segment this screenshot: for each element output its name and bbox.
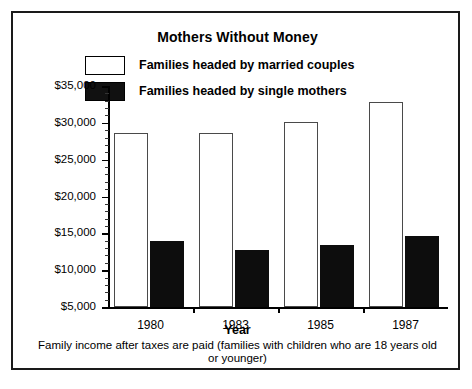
y-axis-tick (102, 123, 109, 125)
y-axis-minor-tick (105, 285, 109, 286)
bar-1987-series-2 (405, 236, 439, 307)
y-axis-tick-label: $25,000 (26, 153, 96, 165)
y-axis-tick-label: $30,000 (26, 116, 96, 128)
y-axis-minor-tick (105, 189, 109, 190)
y-axis-minor-tick (105, 204, 109, 205)
y-axis-tick-label: $35,000 (26, 79, 96, 91)
chart-frame: Mothers Without Money Families headed by… (11, 11, 460, 370)
y-axis-minor-tick (105, 152, 109, 153)
y-axis-minor-tick (105, 101, 109, 102)
y-axis-minor-tick (105, 300, 109, 301)
chart-caption: Family income after taxes are paid (fami… (37, 339, 438, 365)
bar-1980-series-2 (150, 241, 184, 307)
legend-item-married-couples: Families headed by married couples (85, 53, 435, 77)
y-axis-minor-tick (105, 174, 109, 175)
y-axis-tick (102, 307, 109, 309)
plot-area: $5,000$10,000$15,000$20,000$25,000$30,00… (98, 75, 448, 310)
y-axis-tick-label: $10,000 (26, 263, 96, 275)
page-title: Mothers Without Money (13, 29, 462, 45)
y-axis-tick-label: $20,000 (26, 190, 96, 202)
bar-1983-series-2 (235, 250, 269, 307)
y-axis-minor-tick (105, 93, 109, 94)
x-axis-tick (363, 307, 365, 313)
y-axis-minor-tick (105, 182, 109, 183)
y-axis-tick (102, 160, 109, 162)
y-axis-minor-tick (105, 292, 109, 293)
y-axis-minor-tick (105, 278, 109, 279)
bar-1983-series-1 (199, 133, 233, 307)
bar-1985-series-1 (284, 122, 318, 307)
y-axis-minor-tick (105, 219, 109, 220)
y-axis-tick (102, 270, 109, 272)
bar-1987-series-1 (369, 102, 403, 307)
y-axis-minor-tick (105, 130, 109, 131)
legend-item-label: Families headed by married couples (139, 58, 354, 72)
y-axis-tick-label: $15,000 (26, 226, 96, 238)
y-axis-minor-tick (105, 241, 109, 242)
y-axis-minor-tick (105, 263, 109, 264)
chart-page: Mothers Without Money Families headed by… (0, 0, 472, 389)
y-axis-tick-label: $5,000 (26, 300, 96, 312)
bar-1980-series-1 (114, 133, 148, 307)
y-axis-minor-tick (105, 115, 109, 116)
y-axis-minor-tick (105, 211, 109, 212)
x-axis-title: Year (13, 323, 462, 337)
y-axis-minor-tick (105, 226, 109, 227)
y-axis-minor-tick (105, 255, 109, 256)
white-square-swatch-icon (85, 56, 125, 75)
y-axis-minor-tick (105, 108, 109, 109)
y-axis-minor-tick (105, 167, 109, 168)
y-axis-tick (102, 86, 109, 88)
bar-1985-series-2 (320, 245, 354, 307)
x-axis-tick (278, 307, 280, 313)
y-axis-minor-tick (105, 248, 109, 249)
y-axis-minor-tick (105, 145, 109, 146)
y-axis-tick (102, 233, 109, 235)
y-axis-minor-tick (105, 138, 109, 139)
x-axis-tick (193, 307, 195, 313)
y-axis-tick (102, 197, 109, 199)
